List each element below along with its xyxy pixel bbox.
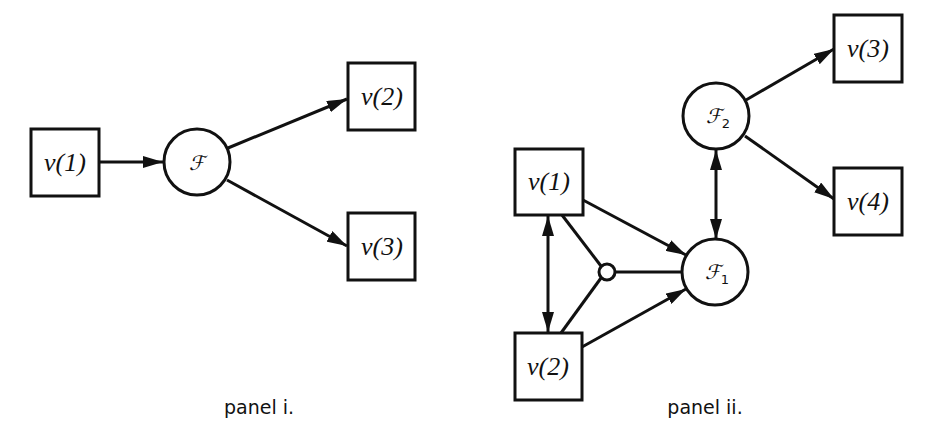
p2-F2-subscript: 2 bbox=[722, 116, 730, 131]
diagram-canvas: v(1) ℱ v(2) v(3) panel i. v(1) v(2) v(3)… bbox=[0, 0, 937, 448]
p2-F1-subscript: 1 bbox=[721, 272, 729, 287]
p1-F-symbol: ℱ bbox=[189, 151, 205, 175]
diagram-graphics bbox=[0, 0, 937, 448]
p2-v2-label: v(2) bbox=[527, 354, 569, 380]
p2-caption: panel ii. bbox=[667, 396, 742, 418]
p2-F2-label: ℱ2 bbox=[706, 106, 730, 130]
p2-junction-node bbox=[599, 264, 615, 280]
p2-edge-v2-F1 bbox=[582, 289, 686, 347]
p2-F1-symbol: ℱ bbox=[705, 260, 721, 284]
p1-edge-F-v3 bbox=[227, 180, 347, 246]
p1-v1-label: v(1) bbox=[44, 150, 86, 176]
p2-edge-F2-v3 bbox=[746, 49, 834, 100]
p1-v3-label: v(3) bbox=[361, 234, 403, 260]
p2-edge-F2-v4 bbox=[745, 136, 834, 199]
p2-F2-symbol: ℱ bbox=[706, 104, 722, 128]
p2-v4-label: v(4) bbox=[847, 189, 889, 215]
p1-edge-F-v2 bbox=[228, 99, 347, 148]
p2-edge-v1-junction bbox=[562, 215, 601, 266]
p2-v3-label: v(3) bbox=[847, 36, 889, 62]
p2-v1-label: v(1) bbox=[528, 169, 570, 195]
p1-F-label: ℱ bbox=[189, 153, 205, 173]
p1-caption: panel i. bbox=[224, 396, 294, 418]
p2-F1-label: ℱ1 bbox=[705, 262, 729, 286]
p2-edge-v2-junction bbox=[561, 278, 601, 333]
p1-v2-label: v(2) bbox=[361, 84, 403, 110]
p2-edge-v1-F1 bbox=[583, 200, 686, 255]
